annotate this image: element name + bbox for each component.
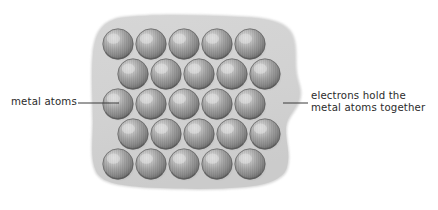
- metal-atom-grid: [103, 29, 282, 182]
- metal-atoms-label: metal atoms: [11, 96, 77, 108]
- electrons-label-line1: electrons hold the: [311, 90, 425, 102]
- electrons-label: electrons hold the metal atoms together: [311, 90, 425, 115]
- electrons-label-line2: metal atoms together: [311, 102, 425, 114]
- metal-atoms-label-text: metal atoms: [11, 96, 77, 108]
